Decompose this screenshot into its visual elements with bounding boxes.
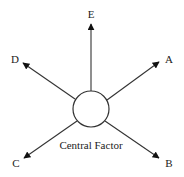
- arrow-label-e: E: [88, 8, 95, 20]
- arrow-label-a: A: [165, 53, 173, 65]
- central-factor-label: Central Factor: [59, 139, 123, 151]
- arrow-label-d: D: [11, 53, 19, 65]
- central-factor-circle: [73, 91, 109, 127]
- arrow-a: [107, 62, 159, 100]
- central-factor-diagram: EADCB Central Factor: [0, 0, 184, 177]
- arrow-label-b: B: [165, 157, 172, 169]
- arrow-d: [23, 63, 75, 99]
- arrow-label-c: C: [12, 157, 19, 169]
